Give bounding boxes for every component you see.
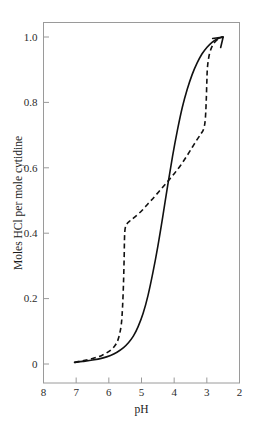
x-axis-title: pH [134, 403, 148, 416]
titration-curve-chart: 8765432 00.20.40.60.81.0 pH Moles HCl pe… [0, 0, 255, 431]
y-tick-label: 0.2 [24, 292, 38, 304]
x-tick-label: 4 [171, 386, 177, 398]
y-tick-label: 0 [32, 358, 38, 370]
x-tick-label: 2 [237, 386, 243, 398]
x-tick-label: 7 [73, 386, 79, 398]
y-tick-label: 0.6 [24, 162, 38, 174]
y-tick-label: 0.8 [24, 96, 38, 108]
y-tick-label: 0.4 [24, 227, 38, 239]
y-axis-title: Moles HCl per mole cytidine [12, 136, 25, 270]
x-tick-label: 6 [106, 386, 112, 398]
x-tick-label: 3 [204, 386, 210, 398]
x-tick-label: 5 [139, 386, 145, 398]
chart-figure: 8765432 00.20.40.60.81.0 pH Moles HCl pe… [0, 0, 255, 431]
chart-background [0, 0, 255, 431]
y-tick-label: 1.0 [24, 31, 38, 43]
x-tick-label: 8 [41, 386, 47, 398]
